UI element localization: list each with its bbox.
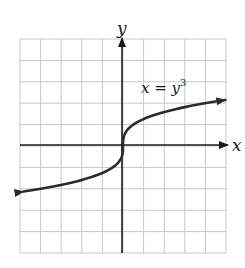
graph-figure: y x x = y3 [0,0,245,268]
x-axis-label: x [232,135,242,155]
equation-exponent: 3 [180,77,186,88]
y-axis-label: y [116,18,127,38]
equation-label: x = y3 [141,77,186,97]
equation-main: x = y [141,79,181,97]
